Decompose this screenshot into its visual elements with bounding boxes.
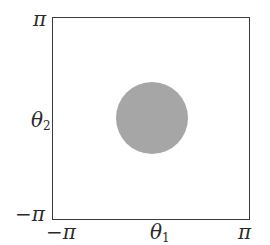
x-axis-label-main: θ [150, 220, 162, 244]
disc-region [116, 82, 188, 154]
x-axis-label: θ1 [150, 222, 170, 244]
y-min-label: −π [15, 204, 45, 224]
x-min-label: −π [46, 222, 76, 242]
y-max-label: π [33, 9, 46, 29]
y-axis-label-sub: 2 [43, 119, 51, 133]
x-axis-label-sub: 1 [162, 231, 170, 245]
y-axis-label: θ2 [31, 110, 51, 132]
x-max-label: π [238, 222, 251, 242]
y-axis-label-main: θ [31, 108, 43, 132]
